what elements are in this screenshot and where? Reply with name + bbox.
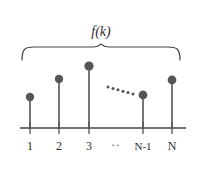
- stem-plot-canvas: f(k): [0, 0, 197, 172]
- diagonal-ellipsis-dots: [107, 86, 135, 96]
- x-axis-tick-labels: 1 2 3 ·· N-1 N: [27, 138, 177, 153]
- marker-2: [55, 75, 63, 83]
- brace-label-fk: f(k): [91, 24, 111, 40]
- marker-n-minus-1: [139, 91, 148, 100]
- marker-1: [26, 93, 34, 101]
- tick-label-1: 1: [27, 139, 33, 153]
- ellipsis-dot: [117, 88, 120, 91]
- ellipsis-dot: [122, 90, 125, 93]
- tick-label-3: 3: [86, 139, 92, 153]
- marker-3: [84, 61, 93, 70]
- tick-label-n: N: [168, 139, 177, 153]
- range-brace: [22, 44, 180, 60]
- ellipsis-dot: [112, 87, 115, 90]
- tick-label-ellipsis: ··: [111, 138, 121, 152]
- ellipsis-dot: [127, 91, 130, 94]
- ellipsis-dot: [107, 86, 110, 89]
- ellipsis-dot: [132, 93, 135, 96]
- tick-label-n-minus-1: N-1: [134, 140, 151, 152]
- stems: [30, 66, 172, 128]
- marker-n: [168, 76, 177, 85]
- stem-plot-figure: f(k): [0, 0, 197, 172]
- tick-label-2: 2: [56, 139, 62, 153]
- stem-markers: [26, 61, 177, 101]
